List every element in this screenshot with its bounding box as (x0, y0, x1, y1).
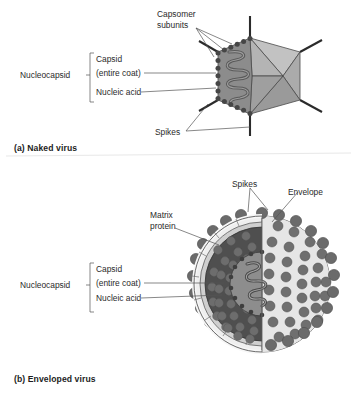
capsomer-label-line2: subunits (157, 20, 188, 30)
spikes-label-a: Spikes (155, 127, 180, 137)
capsid-label-b-line2: (entire coat) (96, 278, 141, 288)
capsid-label-a-line2: (entire coat) (96, 68, 141, 78)
panel-b-caption: (b) Enveloped virus (14, 374, 96, 384)
matrix-label-line2: protein (150, 221, 176, 231)
nucleocapsid-bracket-b (86, 263, 94, 312)
matrix-label-line1: Matrix (150, 210, 174, 220)
virus-structure-figure: Capsomer subunits Nucleocapsid Capsid (e… (0, 0, 357, 405)
naked-virus-graphic: Capsomer subunits Nucleocapsid Capsid (e… (20, 9, 322, 137)
nucleocapsid-label-a: Nucleocapsid (20, 70, 71, 80)
nucleic-acid-label-b: Nucleic acid (96, 293, 141, 303)
nucleic-acid-label-a: Nucleic acid (96, 87, 141, 97)
envelope-label: Envelope (288, 187, 323, 197)
capsid-label-a-line1: Capsid (96, 54, 122, 64)
panel-divider (6, 153, 351, 156)
capsid-facets (250, 38, 300, 114)
panel-a-caption: (a) Naked virus (14, 143, 77, 153)
nucleocapsid-label-b: Nucleocapsid (20, 280, 71, 290)
diagram-canvas: Capsomer subunits Nucleocapsid Capsid (e… (0, 0, 357, 405)
capsomer-label-line1: Capsomer (157, 9, 196, 19)
spikes-label-b: Spikes (232, 179, 257, 189)
capsid-label-b-line1: Capsid (96, 264, 122, 274)
nucleocapsid-leader-lines-a (141, 73, 216, 92)
enveloped-virus-graphic: Spikes Envelope Matrix protein Nucleocap… (20, 179, 340, 352)
nucleocapsid-bracket-a (86, 53, 94, 102)
